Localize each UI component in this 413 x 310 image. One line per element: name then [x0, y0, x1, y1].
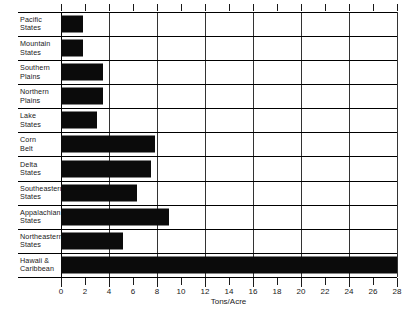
tick-bottom-24 [349, 278, 350, 287]
bar-chart: PacificStatesMountainStatesSouthernPlain… [0, 0, 413, 310]
tick-label-2: 2 [83, 287, 87, 296]
bar [61, 160, 151, 177]
row-separator [18, 36, 397, 37]
tick-bottom-8 [157, 278, 158, 287]
tick-bottom-2 [85, 278, 86, 285]
tick-label-8: 8 [155, 287, 159, 296]
category-label: MountainStates [20, 40, 60, 57]
category-label: NorthernPlains [20, 88, 60, 105]
bar [61, 184, 137, 201]
chart-row: DeltaStates [0, 156, 413, 180]
row-separator [18, 229, 397, 230]
category-label-line2: States [20, 193, 60, 201]
x-axis-baseline [18, 277, 397, 278]
tick-top-16 [253, 4, 254, 11]
tick-bottom-14 [229, 278, 230, 285]
category-label-line2: Plains [20, 72, 60, 80]
bar [61, 40, 83, 57]
chart-row: AppalachianStates [0, 205, 413, 229]
tick-label-14: 14 [225, 287, 234, 296]
tick-top-12 [205, 4, 206, 11]
bar [61, 16, 83, 33]
category-label-line2: States [20, 169, 60, 177]
bar [61, 88, 103, 105]
tick-bottom-16 [253, 278, 254, 287]
bar [61, 136, 155, 153]
chart-row: PacificStates [0, 12, 413, 36]
row-separator [18, 156, 397, 157]
x-axis-title: Tons/Acre [0, 297, 413, 306]
row-separator [18, 205, 397, 206]
category-label-line2: Plains [20, 96, 60, 104]
category-label-line2: Belt [20, 144, 60, 152]
chart-row: NortheasternStates [0, 229, 413, 253]
bar [61, 112, 97, 129]
tick-top-18 [277, 4, 278, 11]
chart-row: SouthernPlains [0, 60, 413, 84]
tick-top-28 [397, 4, 398, 11]
tick-top-2 [85, 4, 86, 11]
category-label-line2: States [20, 48, 60, 56]
tick-bottom-10 [181, 278, 182, 285]
tick-label-6: 6 [131, 287, 135, 296]
tick-bottom-4 [109, 278, 110, 287]
tick-label-28: 28 [393, 287, 402, 296]
row-separator [18, 132, 397, 133]
tick-bottom-26 [373, 278, 374, 285]
tick-bottom-0 [61, 278, 62, 287]
tick-top-14 [229, 4, 230, 11]
row-separator [18, 60, 397, 61]
tick-top-4 [109, 4, 110, 11]
row-separator [18, 12, 397, 13]
category-label-line2: States [20, 217, 60, 225]
chart-row: SoutheasternStates [0, 181, 413, 205]
tick-top-24 [349, 4, 350, 11]
chart-row: MountainStates [0, 36, 413, 60]
tick-top-8 [157, 4, 158, 11]
bar [61, 208, 169, 225]
tick-bottom-22 [325, 278, 326, 285]
category-label: NortheasternStates [20, 232, 60, 249]
bar [61, 232, 123, 249]
tick-label-20: 20 [297, 287, 306, 296]
tick-bottom-18 [277, 278, 278, 285]
tick-bottom-6 [133, 278, 134, 285]
tick-top-26 [373, 4, 374, 11]
tick-top-10 [181, 4, 182, 11]
tick-top-6 [133, 4, 134, 11]
tick-label-26: 26 [369, 287, 378, 296]
chart-row: LakeStates [0, 108, 413, 132]
category-label: AppalachianStates [20, 208, 60, 225]
chart-rows: PacificStatesMountainStatesSouthernPlain… [0, 12, 413, 277]
category-label: SoutheasternStates [20, 184, 60, 201]
x-axis-title-text: Tons/Acre [211, 297, 247, 306]
bar [61, 256, 397, 273]
tick-bottom-28 [397, 278, 398, 287]
row-separator [18, 253, 397, 254]
category-label: LakeStates [20, 112, 60, 129]
category-label-line2: States [20, 241, 60, 249]
row-separator [18, 181, 397, 182]
tick-label-0: 0 [59, 287, 63, 296]
row-separator [18, 84, 397, 85]
category-label: DeltaStates [20, 160, 60, 177]
tick-top-0 [61, 4, 62, 11]
tick-label-18: 18 [273, 287, 282, 296]
chart-row: NorthernPlains [0, 84, 413, 108]
category-label-line2: States [20, 120, 60, 128]
tick-bottom-20 [301, 278, 302, 287]
category-label: Hawaii &Caribbean [20, 256, 60, 273]
tick-label-22: 22 [321, 287, 330, 296]
chart-row: Hawaii &Caribbean [0, 253, 413, 277]
tick-top-20 [301, 4, 302, 11]
tick-label-24: 24 [345, 287, 354, 296]
tick-label-16: 16 [249, 287, 258, 296]
category-label-line2: Caribbean [20, 265, 60, 273]
category-label: SouthernPlains [20, 64, 60, 81]
tick-top-22 [325, 4, 326, 11]
tick-label-10: 10 [177, 287, 186, 296]
bar [61, 64, 103, 81]
tick-bottom-12 [205, 278, 206, 287]
category-label: PacificStates [20, 16, 60, 33]
tick-label-12: 12 [201, 287, 210, 296]
